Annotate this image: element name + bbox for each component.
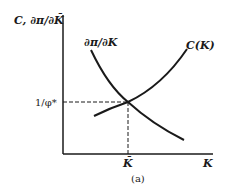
chart: C, ∂π/∂K̄ ∂π/∂K C(K) 1/φ* K̄ K (a) xyxy=(0,0,225,195)
curve-c-k xyxy=(94,49,187,116)
y-axis-label: C, ∂π/∂K̄ xyxy=(14,13,64,27)
panel-label: (a) xyxy=(131,173,145,184)
x-axis-label: K xyxy=(202,157,213,170)
y-tick-label: 1/φ* xyxy=(35,97,57,108)
curve-dpi-label: ∂π/∂K xyxy=(84,36,118,49)
x-tick-label: K̄ xyxy=(122,156,133,170)
curve-c-label: C(K) xyxy=(186,39,215,52)
curve-dpi-dk xyxy=(91,50,184,140)
